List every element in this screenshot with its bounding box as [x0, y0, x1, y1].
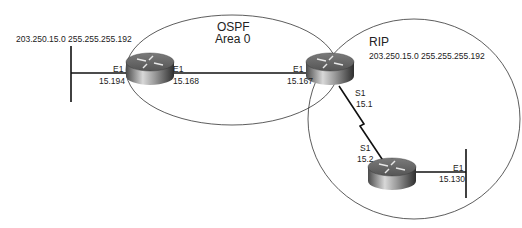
router-bottom-icon — [368, 158, 416, 190]
router-bottom-ethernet-interface-address: 15.130 — [439, 174, 465, 184]
rip-area-title: RIP — [369, 36, 389, 49]
router-bottom-serial-interface-name: S1 — [360, 143, 370, 153]
ospf-area-subtitle: Area 0 — [215, 33, 250, 46]
router-bottom-ethernet-interface-name: E1 — [453, 163, 463, 173]
rip-network-label: 203.250.15.0 255.255.255.192 — [369, 51, 485, 61]
router-left-left-interface-name: E1 — [113, 64, 123, 74]
router-left-icon — [126, 53, 174, 85]
router-center-serial-interface-name: S1 — [355, 88, 365, 98]
router-bottom-serial-interface-address: 15.2 — [357, 154, 374, 164]
router-left-left-interface-address: 15.194 — [99, 76, 125, 86]
router-left-right-interface-address: 15.168 — [173, 76, 199, 86]
router-center-serial-interface-address: 15.1 — [356, 99, 373, 109]
router-center-left-interface-name: E1 — [293, 64, 303, 74]
left-segment-network-label: 203.250.15.0 255.255.255.192 — [16, 34, 132, 44]
router-center-icon — [306, 53, 354, 85]
rip-area-boundary — [308, 19, 520, 219]
router-left-right-interface-name: E1 — [173, 64, 183, 74]
router-center-left-interface-address: 15.167 — [287, 76, 313, 86]
